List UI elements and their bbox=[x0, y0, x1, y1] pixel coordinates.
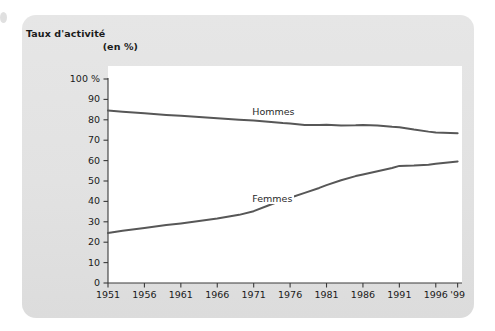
y-axis-tick-label: 30 bbox=[54, 217, 100, 227]
x-axis-tick-label: 1971 bbox=[236, 290, 272, 300]
series-label-hommes: Hommes bbox=[250, 106, 296, 117]
y-axis-tick-label: 0 bbox=[54, 278, 100, 288]
x-axis-tick-label: 1976 bbox=[272, 290, 308, 300]
y-axis-tick-label: 70 bbox=[54, 135, 100, 145]
x-axis-tick-label: 1966 bbox=[199, 290, 235, 300]
y-axis-tick-label: 40 bbox=[54, 196, 100, 206]
x-axis-tick-label: 1956 bbox=[126, 290, 162, 300]
y-axis-tick-label: 50 bbox=[54, 176, 100, 186]
x-axis-tick-label: 1981 bbox=[309, 290, 345, 300]
x-axis-tick-label: 1961 bbox=[163, 290, 199, 300]
y-axis-tick-label: 100 % bbox=[54, 74, 100, 84]
x-axis-tick-label: 1991 bbox=[381, 290, 417, 300]
chart-root: Taux d'activité (en %) 01020304050607080… bbox=[0, 0, 495, 331]
x-axis-tick-label: 1951 bbox=[90, 290, 126, 300]
y-axis-tick-label: 60 bbox=[54, 156, 100, 166]
y-axis-tick-label: 20 bbox=[54, 237, 100, 247]
y-axis-tick-label: 10 bbox=[54, 258, 100, 268]
series-label-femmes: Femmes bbox=[250, 193, 294, 204]
y-axis-tick-label: 90 bbox=[54, 94, 100, 104]
x-axis-tick-label: 1986 bbox=[345, 290, 381, 300]
x-axis-tick-label: '99 bbox=[440, 290, 476, 300]
data-series bbox=[108, 111, 458, 233]
y-axis-tick-label: 80 bbox=[54, 115, 100, 125]
